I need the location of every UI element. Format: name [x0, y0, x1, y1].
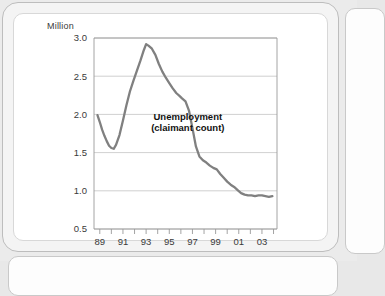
svg-text:1.0: 1.0 [74, 185, 87, 196]
svg-text:3.0: 3.0 [74, 32, 87, 43]
y-axis-tick-labels: 3.02.52.01.51.00.5 [74, 32, 87, 234]
svg-text:(claimant count): (claimant count) [151, 122, 224, 133]
svg-text:93: 93 [141, 236, 152, 247]
svg-text:91: 91 [118, 236, 129, 247]
svg-text:01: 01 [233, 236, 244, 247]
series-annotation: Unemployment(claimant count) [151, 111, 224, 133]
svg-text:97: 97 [187, 236, 198, 247]
svg-text:2.5: 2.5 [74, 71, 87, 82]
plot-frame [94, 38, 277, 229]
gridlines [94, 38, 277, 229]
adjacent-panel-bottom [8, 256, 338, 296]
x-axis-tick-labels: 8991939597990103 [95, 236, 268, 247]
svg-text:1.5: 1.5 [74, 147, 87, 158]
unemployment-line-chart: Million 3.02.52.01.51.00.5 8991939597990… [3, 3, 340, 253]
svg-text:95: 95 [164, 236, 175, 247]
svg-text:2.0: 2.0 [74, 109, 87, 120]
svg-text:Unemployment: Unemployment [154, 111, 223, 122]
svg-text:0.5: 0.5 [74, 223, 87, 234]
chart-svg: 3.02.52.01.51.00.5 8991939597990103 Unem… [3, 3, 340, 253]
x-axis [94, 229, 277, 234]
figure-outer-frame: Million 3.02.52.01.51.00.5 8991939597990… [2, 2, 339, 252]
svg-text:03: 03 [257, 236, 268, 247]
svg-text:89: 89 [95, 236, 106, 247]
svg-text:99: 99 [210, 236, 221, 247]
adjacent-panel-right [345, 8, 385, 254]
